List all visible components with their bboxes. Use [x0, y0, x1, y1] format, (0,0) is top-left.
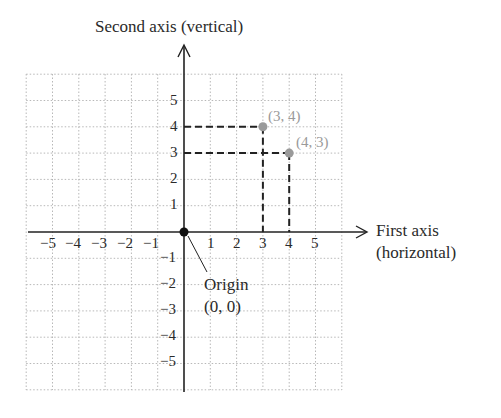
x-tick-label: −2 [117, 236, 133, 251]
vertical-axis-title: Second axis (vertical) [95, 18, 243, 35]
horizontal-axis-title-line1: First axis [376, 222, 439, 239]
y-tick-label: 5 [170, 93, 178, 108]
y-tick-label: −4 [160, 328, 176, 343]
x-tick-label: 3 [259, 236, 267, 251]
x-tick-label: −1 [143, 236, 159, 251]
y-tick-label: 3 [170, 145, 178, 160]
y-tick-label: 2 [170, 171, 178, 186]
origin-point [180, 228, 189, 237]
y-tick-label: −1 [160, 250, 176, 265]
x-tick-label: −5 [40, 236, 56, 251]
horizontal-axis-title-line2: (horizontal) [376, 244, 456, 261]
y-tick-label: −5 [160, 354, 176, 369]
x-tick-label: −4 [65, 236, 81, 251]
x-tick-label: 4 [285, 236, 293, 251]
y-tick-label: 1 [170, 197, 178, 212]
origin-label-line1: Origin [204, 276, 248, 293]
y-tick-label: −2 [160, 276, 176, 291]
x-tick-label: 1 [207, 236, 215, 251]
y-tick-label: −3 [160, 302, 176, 317]
point-4-3 [285, 149, 294, 158]
point-label-3-4: (3, 4) [268, 109, 301, 124]
origin-leader-line [188, 236, 207, 272]
point-label-4-3: (4, 3) [296, 135, 329, 150]
point-3-4 [258, 122, 267, 131]
coordinate-plane-diagram: Second axis (vertical) First axis (horiz… [0, 0, 501, 418]
plane-graphic [0, 0, 501, 418]
x-tick-label: 5 [311, 236, 319, 251]
x-tick-label: 2 [233, 236, 241, 251]
origin-label-line2: (0, 0) [204, 298, 241, 315]
x-tick-label: −3 [91, 236, 107, 251]
y-tick-label: 4 [170, 119, 178, 134]
